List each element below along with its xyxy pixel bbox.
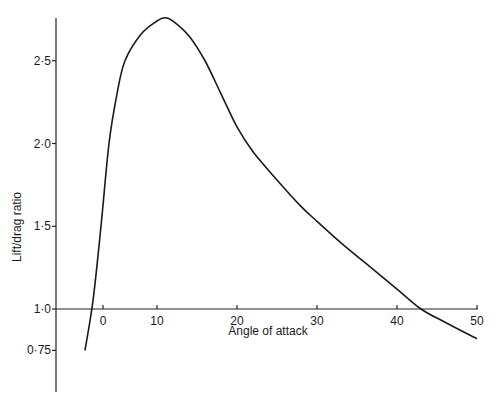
x-tick-label: 10 [150, 314, 164, 328]
x-axis-title: Angle of attack [228, 324, 308, 338]
x-tick-label: 50 [470, 314, 484, 328]
y-axis-ticks: 0·751·01·52·02·5 [27, 54, 56, 358]
y-axis-title: Lift/drag ratio [10, 192, 24, 262]
y-tick-label: 2·0 [34, 137, 52, 151]
y-tick-label: 1·5 [34, 219, 52, 233]
x-tick-label: 40 [390, 314, 404, 328]
lift-drag-chart: 0·751·01·52·02·5 01020304050 Angle of at… [0, 0, 497, 408]
y-tick-label: 2·5 [34, 54, 52, 68]
y-tick-label: 1·0 [34, 302, 52, 316]
x-tick-label: 0 [100, 314, 107, 328]
y-tick-label: 0·75 [27, 343, 51, 357]
x-tick-label: 30 [310, 314, 324, 328]
lift-drag-curve [85, 18, 477, 351]
